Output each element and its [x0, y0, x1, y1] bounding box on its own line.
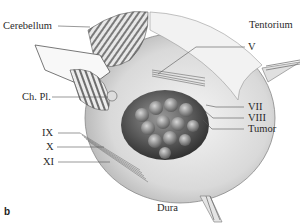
label-tumor: Tumor [248, 124, 276, 135]
label-nerve-x: X [46, 142, 54, 153]
anatomical-illustration: Cerebellum Tentorium V Ch. Pl. VII VIII … [0, 0, 307, 223]
label-nerve-xi: XI [43, 157, 54, 168]
panel-label: b [4, 206, 10, 217]
label-nerve-vii: VII [248, 102, 263, 113]
label-nerve-v: V [248, 42, 256, 53]
label-dura: Dura [157, 203, 178, 214]
tumor-mass [121, 90, 209, 160]
label-choroid-plexus: Ch. Pl. [22, 92, 51, 103]
label-nerve-ix: IX [42, 128, 53, 139]
label-cerebellum: Cerebellum [3, 21, 52, 32]
label-tentorium: Tentorium [249, 20, 293, 31]
choroid-plexus-shape [107, 91, 117, 101]
label-nerve-viii: VIII [248, 113, 266, 124]
